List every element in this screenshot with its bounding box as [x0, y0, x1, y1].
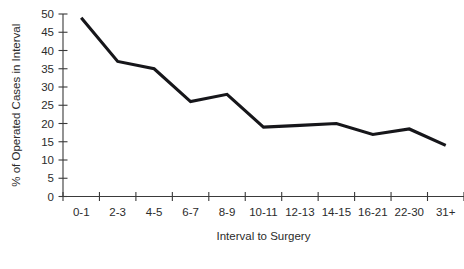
x-axis-tick-label: 31+	[436, 206, 456, 218]
y-axis-tick-label: 50	[41, 8, 54, 20]
chart-canvas: 051015202530354045500-12-34-56-78-910-11…	[0, 0, 464, 269]
x-axis-tick-label: 4-5	[146, 206, 163, 218]
y-axis-tick-label: 0	[48, 191, 54, 203]
y-axis-tick-label: 40	[41, 45, 54, 57]
x-axis-tick-label: 12-13	[285, 206, 314, 218]
y-axis-tick-label: 35	[41, 63, 54, 75]
x-axis-tick-label: 10-11	[249, 206, 278, 218]
y-axis-tick-label: 45	[41, 26, 54, 38]
y-axis-title: % of Operated Cases in Interval	[10, 24, 22, 187]
y-axis-tick-label: 15	[41, 136, 54, 148]
y-axis-tick-label: 5	[48, 172, 54, 184]
x-axis-tick-label: 6-7	[182, 206, 199, 218]
series-line-operated-cases	[81, 18, 446, 146]
x-axis-tick-label: 8-9	[219, 206, 236, 218]
x-axis-tick-label: 16-21	[358, 206, 387, 218]
y-axis-tick-label: 20	[41, 118, 54, 130]
x-axis-title: Interval to Surgery	[216, 230, 310, 242]
x-axis-tick-label: 2-3	[109, 206, 126, 218]
x-axis-tick-label: 0-1	[73, 206, 90, 218]
line-chart-figure: 051015202530354045500-12-34-56-78-910-11…	[0, 0, 464, 269]
x-axis-tick-label: 14-15	[322, 206, 351, 218]
y-axis-tick-label: 25	[41, 99, 54, 111]
y-axis-tick-label: 10	[41, 154, 54, 166]
x-axis-tick-label: 22-30	[395, 206, 424, 218]
y-axis-tick-label: 30	[41, 81, 54, 93]
